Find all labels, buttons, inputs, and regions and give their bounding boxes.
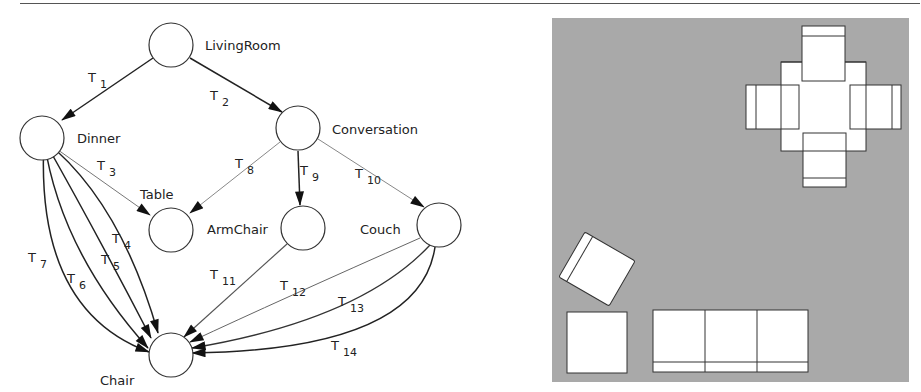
edge-label-T8: T8	[234, 156, 254, 177]
edge-T2	[190, 58, 282, 112]
node-couch[interactable]	[417, 203, 461, 247]
armchair[interactable]	[559, 232, 635, 306]
node-livingroom[interactable]	[149, 23, 193, 67]
node-table[interactable]	[149, 208, 193, 252]
label-couch: Couch	[360, 222, 401, 237]
dining-chair-bottom[interactable]	[803, 133, 846, 187]
label-livingroom: LivingRoom	[205, 38, 281, 53]
edge-label-T6: T6	[66, 271, 86, 292]
dining-chair-top[interactable]	[802, 26, 845, 81]
edge-label-T10: T10	[354, 166, 381, 187]
edge-label-T5: T5	[100, 252, 120, 273]
floor-plan-background	[552, 18, 909, 382]
edge-T13	[192, 245, 430, 348]
node-conversation[interactable]	[276, 106, 320, 150]
node-armchair[interactable]	[281, 206, 325, 250]
edge-label-T2: T2	[209, 88, 229, 109]
label-conversation: Conversation	[332, 122, 418, 137]
edge-T11	[184, 244, 287, 337]
label-chair: Chair	[100, 373, 135, 388]
dining-table[interactable]	[781, 62, 866, 151]
edges	[43, 58, 435, 353]
edge-T14	[192, 247, 435, 353]
edge-T8	[190, 142, 280, 213]
label-table: Table	[139, 187, 174, 202]
nodes	[20, 23, 461, 377]
edge-T6	[44, 140, 148, 348]
label-armchair: ArmChair	[207, 222, 269, 237]
edge-label-T12: T12	[279, 278, 306, 299]
state-transition-graph: LivingRoom Dinner Conversation Table Arm…	[0, 0, 540, 392]
edge-T10	[318, 139, 424, 207]
couch[interactable]	[653, 310, 808, 372]
dining-chair-right[interactable]	[850, 85, 901, 129]
edge-label-T3: T3	[96, 158, 116, 179]
dining-set	[746, 26, 901, 187]
edge-label-T9: T9	[299, 163, 319, 184]
edge-T1	[62, 58, 153, 120]
chair[interactable]	[567, 312, 627, 373]
edge-label-T1: T1	[87, 70, 107, 91]
node-labels: LivingRoom Dinner Conversation Table Arm…	[77, 38, 418, 388]
edge-labels: T1 T2 T3 T4 T5 T6 T7 T8 T9 T10 T11 T12 T…	[27, 70, 381, 359]
edge-label-T11: T11	[209, 267, 236, 288]
label-dinner: Dinner	[77, 131, 121, 146]
node-dinner[interactable]	[20, 116, 64, 160]
dining-chair-left[interactable]	[746, 85, 799, 129]
edge-T9	[298, 151, 300, 205]
node-chair[interactable]	[149, 333, 193, 377]
edge-label-T14: T14	[330, 338, 357, 359]
edge-label-T4: T4	[111, 231, 131, 252]
edge-label-T7: T7	[27, 250, 47, 271]
